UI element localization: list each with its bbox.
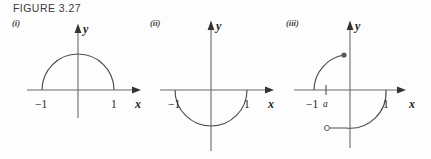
- panel-iii-closed-endpoint: [341, 52, 346, 57]
- panel-iii-y-axis-label: y: [353, 19, 361, 33]
- panel-i-xtick-1: 1: [111, 98, 117, 110]
- panel-iii-xtick-1: 1: [383, 98, 389, 110]
- panel-ii-y-arrowhead: [208, 21, 215, 31]
- panel-ii: (ii) −1 1 x y: [148, 18, 290, 159]
- panel-i-x-axis-label: x: [134, 97, 141, 111]
- panel-ii-plot: −1 1 x y: [148, 18, 290, 159]
- panel-ii-xtick-1: 1: [244, 98, 250, 110]
- panel-iii-lower-right-arc: [329, 90, 386, 128]
- panel-ii-x-axis-label: x: [267, 97, 274, 111]
- panel-iii-x-arrowhead: [397, 87, 406, 94]
- panel-iii: (iii) −1 a 1 x y: [284, 18, 431, 159]
- panel-i: (i) −1 1 x y: [10, 18, 150, 159]
- panel-iii-upper-left-arc: [314, 55, 344, 90]
- panel-iii-plot: −1 a 1 x y: [284, 18, 431, 159]
- panel-ii-y-axis-label: y: [214, 19, 222, 33]
- figure-container: FIGURE 3.27 (i) −1 1 x y (ii): [0, 0, 431, 159]
- panel-iii-xtick-neg1: −1: [306, 98, 318, 110]
- panel-i-plot: −1 1 x y: [10, 18, 150, 159]
- panel-iii-xtick-a: a: [323, 99, 328, 109]
- panel-iii-x-axis-label: x: [408, 97, 415, 111]
- panel-i-y-axis-label: y: [81, 22, 89, 36]
- figure-caption: FIGURE 3.27: [13, 2, 81, 14]
- panel-i-x-arrowhead: [132, 87, 141, 94]
- panel-ii-xtick-neg1: −1: [168, 98, 180, 110]
- panel-iii-open-endpoint: [325, 126, 330, 131]
- panel-iii-y-arrowhead: [347, 21, 354, 31]
- panel-ii-x-arrowhead: [265, 87, 274, 94]
- panel-i-y-arrowhead: [75, 24, 82, 34]
- panel-i-xtick-neg1: −1: [35, 98, 47, 110]
